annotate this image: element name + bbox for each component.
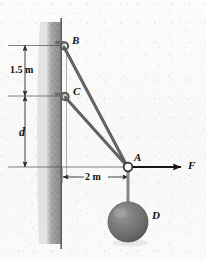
- dimension-label-1-5m: 1.5 m: [10, 65, 33, 75]
- ring-joint-A: [124, 163, 133, 172]
- figure-canvas: 1.5 m d 2 m B C A D F: [0, 0, 206, 261]
- point-label-C: C: [73, 86, 80, 97]
- point-label-B: B: [72, 35, 79, 46]
- dimension-label-2m: 2 m: [85, 172, 101, 182]
- force-label-F: F: [188, 160, 195, 171]
- point-label-D: D: [152, 210, 160, 221]
- vertical-wall: [37, 18, 61, 249]
- statics-diagram-svg: [0, 0, 206, 261]
- dimension-label-d: d: [19, 126, 25, 138]
- sphere-weight-D: [108, 202, 148, 247]
- point-label-A: A: [134, 152, 141, 163]
